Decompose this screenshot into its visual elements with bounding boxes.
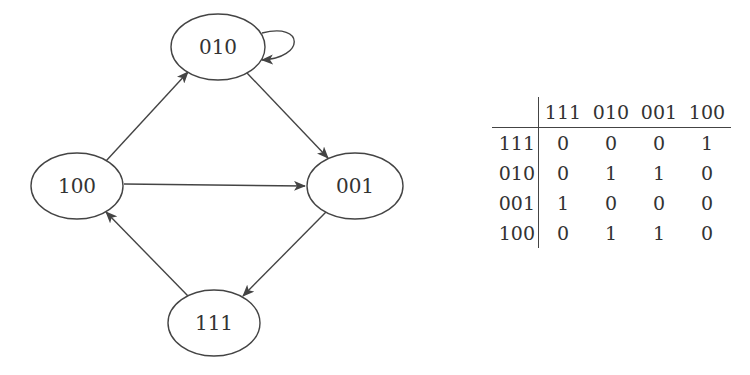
matrix-cell: 0 bbox=[635, 128, 683, 159]
matrix-cell: 0 bbox=[539, 128, 588, 159]
matrix-cell: 0 bbox=[683, 218, 731, 248]
node-label-111: 111 bbox=[195, 311, 233, 335]
column-header: 010 bbox=[587, 97, 635, 128]
column-header: 111 bbox=[539, 97, 588, 128]
matrix-cell: 1 bbox=[587, 218, 635, 248]
node-111: 111 bbox=[168, 290, 260, 356]
node-010: 010 bbox=[171, 14, 265, 80]
row-header: 100 bbox=[492, 218, 539, 248]
matrix-cell: 0 bbox=[683, 158, 731, 188]
column-header: 100 bbox=[683, 97, 731, 128]
transition-matrix: 111 010 001 100 111 0 0 0 1 010 0 1 1 0 … bbox=[492, 97, 731, 248]
node-label-001: 001 bbox=[336, 174, 374, 198]
matrix-cell: 1 bbox=[635, 218, 683, 248]
matrix-cell: 1 bbox=[635, 158, 683, 188]
matrix-cell: 0 bbox=[587, 188, 635, 218]
matrix-corner bbox=[492, 97, 539, 128]
matrix-cell: 0 bbox=[539, 158, 588, 188]
matrix-cell: 1 bbox=[587, 158, 635, 188]
node-100: 100 bbox=[31, 153, 123, 219]
matrix-row: 111 0 0 0 1 bbox=[492, 128, 731, 159]
edge-111-to-100 bbox=[106, 212, 188, 296]
matrix-cell: 0 bbox=[539, 218, 588, 248]
matrix-cell: 0 bbox=[635, 188, 683, 218]
matrix-row: 001 1 0 0 0 bbox=[492, 188, 731, 218]
node-label-100: 100 bbox=[58, 174, 96, 198]
node-001: 001 bbox=[307, 153, 403, 219]
column-header: 001 bbox=[635, 97, 683, 128]
matrix-cell: 1 bbox=[683, 128, 731, 159]
edge-001-to-111 bbox=[243, 212, 326, 296]
node-label-010: 010 bbox=[199, 35, 237, 59]
matrix-row: 100 0 1 1 0 bbox=[492, 218, 731, 248]
edge-100-to-001 bbox=[124, 184, 305, 186]
edge-100-to-010 bbox=[106, 72, 188, 161]
edge-010-self-loop bbox=[262, 31, 294, 60]
row-header: 111 bbox=[492, 128, 539, 159]
matrix-cell: 1 bbox=[539, 188, 588, 218]
matrix-cell: 0 bbox=[683, 188, 731, 218]
row-header: 001 bbox=[492, 188, 539, 218]
matrix-header-row: 111 010 001 100 bbox=[492, 97, 731, 128]
row-header: 010 bbox=[492, 158, 539, 188]
edge-010-to-001 bbox=[247, 73, 328, 158]
matrix-row: 010 0 1 1 0 bbox=[492, 158, 731, 188]
matrix-cell: 0 bbox=[587, 128, 635, 159]
